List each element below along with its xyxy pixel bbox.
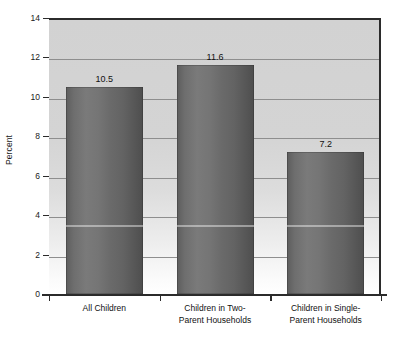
- x-axis-tick-mark: [160, 294, 161, 301]
- y-axis-tick-labels: 02468101214: [22, 0, 40, 341]
- x-axis-tick-mark: [270, 294, 271, 301]
- bar-chart: Percent 02468101214 All ChildrenChildren…: [0, 0, 394, 341]
- y-axis-tick-label: 12: [22, 53, 40, 62]
- bar-highlight-band: [66, 225, 143, 227]
- x-axis-line: [42, 294, 387, 296]
- y-axis-tick-label: 14: [22, 14, 40, 23]
- bar: [66, 87, 143, 294]
- bar-value-label: 10.5: [96, 74, 114, 84]
- bar-highlight-band: [287, 225, 364, 227]
- x-axis-category-line: Children in Single-: [261, 303, 391, 315]
- y-axis-tick-label: 4: [22, 211, 40, 220]
- bar: [287, 152, 364, 294]
- x-axis-category-line: Parent Households: [261, 315, 391, 327]
- y-axis-tick-label: 6: [22, 171, 40, 180]
- y-axis-title: Percent: [4, 120, 14, 180]
- bar: [177, 65, 254, 294]
- y-axis-tick-label: 10: [22, 93, 40, 102]
- y-axis-tick-label: 2: [22, 250, 40, 259]
- y-axis-tick-label: 8: [22, 132, 40, 141]
- bar-highlight-band: [177, 225, 254, 227]
- bar-value-label: 7.2: [319, 139, 332, 149]
- bar-value-label: 11.6: [207, 52, 224, 62]
- x-axis-tick-mark: [381, 294, 382, 301]
- x-axis-category-label: Children in Single-Parent Households: [261, 303, 391, 326]
- x-axis-tick-mark: [49, 294, 50, 301]
- y-axis-tick-label: 0: [22, 290, 40, 299]
